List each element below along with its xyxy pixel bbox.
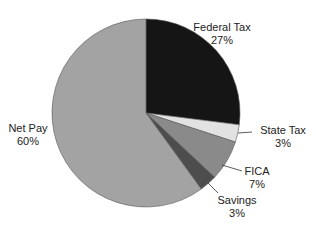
label-savings-name: Savings	[212, 194, 262, 207]
pie-slices	[52, 19, 240, 207]
label-savings-pct: 3%	[212, 207, 262, 220]
label-net-pay-pct: 60%	[0, 135, 56, 148]
label-fica-pct: 7%	[232, 178, 282, 191]
label-savings: Savings 3%	[212, 194, 262, 220]
label-net-pay-name: Net Pay	[0, 122, 56, 135]
label-federal-tax-pct: 27%	[182, 34, 262, 47]
label-fica-name: FICA	[232, 165, 282, 178]
label-federal-tax: Federal Tax 27%	[182, 21, 262, 47]
label-federal-tax-name: Federal Tax	[182, 21, 262, 34]
label-state-tax-pct: 3%	[250, 137, 316, 150]
label-state-tax-name: State Tax	[250, 124, 316, 137]
label-fica: FICA 7%	[232, 165, 282, 191]
label-net-pay: Net Pay 60%	[0, 122, 56, 148]
pie-chart	[0, 0, 316, 230]
label-state-tax: State Tax 3%	[250, 124, 316, 150]
